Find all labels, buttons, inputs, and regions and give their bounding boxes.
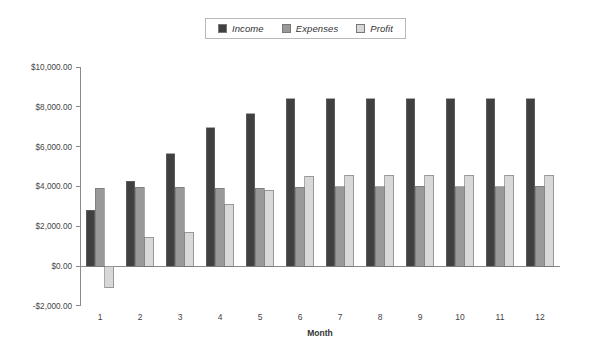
bar-income-month-12[interactable] xyxy=(526,99,535,266)
bar-profit-month-4[interactable] xyxy=(225,204,234,266)
x-tick-label: 4 xyxy=(218,312,223,322)
bar-expenses-month-3[interactable] xyxy=(175,187,184,266)
y-tick-label: $4,000.00 xyxy=(36,182,73,191)
bar-income-month-5[interactable] xyxy=(246,114,255,266)
bar-profit-month-6[interactable] xyxy=(305,176,314,266)
bar-income-month-7[interactable] xyxy=(326,99,335,266)
bar-profit-month-9[interactable] xyxy=(425,175,434,266)
bar-profit-month-7[interactable] xyxy=(345,175,354,266)
bar-income-month-3[interactable] xyxy=(166,154,175,266)
bar-chart: Income Expenses Profit $10,000.00$8,000.… xyxy=(0,0,611,349)
bars-group xyxy=(86,99,554,288)
bar-income-month-4[interactable] xyxy=(206,128,215,266)
bar-expenses-month-4[interactable] xyxy=(215,188,224,266)
bar-expenses-month-10[interactable] xyxy=(455,187,464,266)
bar-expenses-month-8[interactable] xyxy=(375,187,384,266)
bar-profit-month-2[interactable] xyxy=(145,237,154,266)
y-tick-label: $10,000.00 xyxy=(31,63,72,72)
y-tick-label: $8,000.00 xyxy=(36,103,73,112)
bar-income-month-9[interactable] xyxy=(406,99,415,266)
x-tick-label: 10 xyxy=(455,312,465,322)
plot-area: $10,000.00$8,000.00$6,000.00$4,000.00$2,… xyxy=(0,0,611,349)
x-tick-label: 2 xyxy=(138,312,143,322)
y-tick-label: -$2,000.00 xyxy=(33,302,73,311)
x-tick-labels: 123456789101112 xyxy=(98,312,545,322)
y-tick-label: $0.00 xyxy=(52,262,73,271)
bar-profit-month-11[interactable] xyxy=(505,175,514,266)
bar-income-month-8[interactable] xyxy=(366,99,375,266)
x-tick-label: 9 xyxy=(418,312,423,322)
bar-income-month-2[interactable] xyxy=(126,181,135,266)
x-tick-label: 7 xyxy=(338,312,343,322)
bar-income-month-11[interactable] xyxy=(486,99,495,266)
bar-expenses-month-9[interactable] xyxy=(415,186,424,266)
y-tick-label: $6,000.00 xyxy=(36,143,73,152)
bar-profit-month-5[interactable] xyxy=(265,190,274,266)
bar-income-month-6[interactable] xyxy=(286,99,295,266)
x-tick-label: 3 xyxy=(178,312,183,322)
y-tick-label: $2,000.00 xyxy=(36,222,73,231)
bar-expenses-month-5[interactable] xyxy=(255,188,264,266)
bar-income-month-1[interactable] xyxy=(86,210,95,266)
bar-expenses-month-11[interactable] xyxy=(495,187,504,266)
bar-income-month-10[interactable] xyxy=(446,99,455,266)
bar-expenses-month-2[interactable] xyxy=(135,187,144,266)
bar-expenses-month-7[interactable] xyxy=(335,187,344,266)
x-tick-label: 5 xyxy=(258,312,263,322)
x-tick-label: 12 xyxy=(535,312,545,322)
bar-expenses-month-1[interactable] xyxy=(95,188,104,266)
x-tick-label: 6 xyxy=(298,312,303,322)
bar-profit-month-1[interactable] xyxy=(105,266,114,288)
bar-profit-month-8[interactable] xyxy=(385,175,394,266)
x-tick-label: 1 xyxy=(98,312,103,322)
bar-profit-month-3[interactable] xyxy=(185,232,194,266)
y-axis: $10,000.00$8,000.00$6,000.00$4,000.00$2,… xyxy=(31,63,80,311)
bar-profit-month-12[interactable] xyxy=(545,175,554,266)
bar-profit-month-10[interactable] xyxy=(465,175,474,266)
x-tick-label: 8 xyxy=(378,312,383,322)
bar-expenses-month-12[interactable] xyxy=(535,186,544,266)
x-axis-title: Month xyxy=(307,328,333,338)
bar-expenses-month-6[interactable] xyxy=(295,187,304,266)
x-tick-label: 11 xyxy=(496,312,505,322)
